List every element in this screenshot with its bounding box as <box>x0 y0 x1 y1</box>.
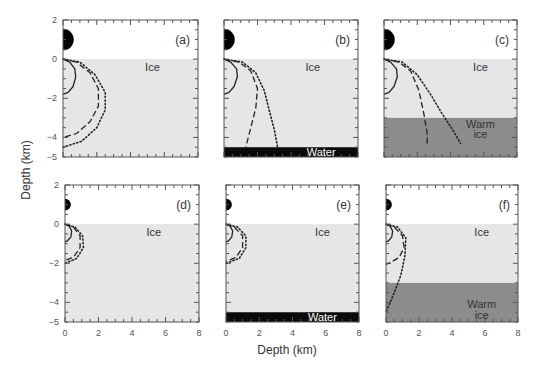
panel-label: (b) <box>335 33 350 47</box>
panel-label: (c) <box>495 33 509 47</box>
panels-group: 20−2−4−5(a)Ice(b)IceWater(c)IceWarmice20… <box>47 15 521 338</box>
x-tick-label: 8 <box>515 328 520 338</box>
x-tick-label: 6 <box>482 328 487 338</box>
y-axis-title: Depth (km) <box>19 140 33 199</box>
x-tick-label: 6 <box>323 328 328 338</box>
region-label: ice <box>473 128 487 140</box>
x-axis-title: Depth (km) <box>257 343 316 357</box>
figure: 20−2−4−5(a)Ice(b)IceWater(c)IceWarmice20… <box>0 0 542 373</box>
panel-a: 20−2−4−5(a)Ice <box>47 15 198 162</box>
x-tick-label: 2 <box>416 328 421 338</box>
region-label: Water <box>307 146 336 158</box>
panel-label: (d) <box>176 198 191 212</box>
ice-layer <box>224 59 358 147</box>
y-tick-label: 2 <box>54 180 59 190</box>
region-label: Ice <box>474 226 489 238</box>
panel-d: 20−2−4−502468(d)Ice <box>49 180 202 338</box>
panel-label: (f) <box>499 198 510 212</box>
y-tick-label: 0 <box>54 219 59 229</box>
x-tick-label: 4 <box>129 328 134 338</box>
region-label: Ice <box>146 226 161 238</box>
x-tick-label: 4 <box>449 328 454 338</box>
ice-layer <box>63 59 198 157</box>
region-label: Ice <box>145 61 160 73</box>
x-tick-label: 6 <box>163 328 168 338</box>
panel-e: 02468(e)IceWater <box>223 185 361 338</box>
x-tick-label: 2 <box>257 328 262 338</box>
x-tick-label: 8 <box>356 328 361 338</box>
y-tick-label: 0 <box>52 54 57 64</box>
warm-ice-layer <box>384 118 517 157</box>
y-tick-label: −5 <box>49 317 59 327</box>
ice-layer <box>65 224 199 322</box>
y-tick-label: 2 <box>52 15 57 25</box>
panel-f: 02468(f)IceWarmice <box>383 185 520 338</box>
region-label: ice <box>475 309 489 321</box>
region-label: Water <box>308 311 337 323</box>
x-tick-label: 0 <box>62 328 67 338</box>
ice-layer <box>384 59 517 118</box>
y-tick-label: −4 <box>47 132 57 142</box>
x-tick-label: 8 <box>196 328 201 338</box>
y-tick-label: −4 <box>49 297 59 307</box>
x-tick-label: 0 <box>223 328 228 338</box>
region-label: Ice <box>315 226 330 238</box>
x-tick-label: 2 <box>96 328 101 338</box>
region-label: Ice <box>473 61 488 73</box>
warm-ice-layer <box>386 283 518 322</box>
region-label: Ice <box>305 61 320 73</box>
y-tick-label: −2 <box>49 258 59 268</box>
panel-label: (a) <box>175 33 190 47</box>
panel-b: (b)IceWater <box>224 20 358 158</box>
y-tick-label: −2 <box>47 93 57 103</box>
y-tick-label: −5 <box>47 152 57 162</box>
x-tick-label: 4 <box>290 328 295 338</box>
panel-c: (c)IceWarmice <box>384 20 517 157</box>
x-tick-label: 0 <box>383 328 388 338</box>
panel-label: (e) <box>336 198 351 212</box>
